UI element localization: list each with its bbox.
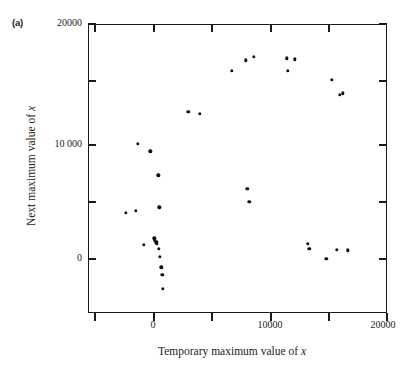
scatter-point: [142, 243, 145, 246]
scatter-point: [134, 209, 137, 212]
scatter-point: [149, 150, 152, 153]
scatter-point: [157, 174, 160, 177]
scatter-point: [158, 205, 161, 208]
ytick-label-20000: 20000: [0, 17, 82, 28]
scatter-plot-area: [88, 24, 387, 313]
xtick-label-10000: 10000: [258, 319, 283, 330]
scatter-point: [159, 266, 162, 269]
scatter-point: [286, 69, 289, 72]
scatter-point: [136, 142, 139, 145]
scatter-point: [330, 78, 333, 81]
scatter-point: [161, 287, 164, 290]
ytick-label-0: 0: [0, 252, 82, 263]
scatter-point: [346, 249, 349, 252]
scatter-point: [341, 92, 344, 95]
x-axis-title: Temporary maximum value of x: [0, 345, 418, 357]
scatter-point: [230, 69, 233, 72]
scatter-point: [247, 200, 250, 203]
scatter-point: [124, 211, 127, 214]
scatter-point: [285, 56, 288, 59]
xtick-minor-5000: [211, 313, 213, 321]
scatter-point: [325, 257, 328, 260]
scatter-point: [158, 255, 161, 258]
xtick-label-0: 0: [151, 319, 156, 330]
scatter-point: [187, 110, 190, 113]
scatter-point: [252, 55, 255, 58]
scatter-point: [308, 247, 311, 250]
x-axis-title-text: Temporary maximum value of: [158, 345, 301, 357]
y-axis-title-variable: x: [25, 106, 37, 111]
ytick-label-10000: 10 000: [0, 138, 82, 149]
scatter-point: [293, 58, 296, 61]
scatter-point: [198, 112, 201, 115]
scatter-point: [161, 273, 164, 276]
figure-panel-a: (a) 20000 10 000 0 0 10000 20000 Tempora…: [0, 0, 418, 377]
xtick-label-20000: 20000: [371, 319, 396, 330]
x-axis-title-variable: x: [301, 345, 306, 357]
scatter-point: [157, 247, 160, 250]
scatter-point: [335, 248, 338, 251]
scatter-point: [246, 187, 249, 190]
y-axis-title-text: Next maximum value of: [25, 111, 37, 226]
scatter-point: [306, 242, 309, 245]
scatter-point: [155, 242, 158, 245]
scatter-point: [244, 59, 247, 62]
y-axis-title: Next maximum value of x: [25, 66, 37, 266]
xtick-minor-neg5000: [94, 313, 96, 321]
xtick-minor-15000: [328, 313, 330, 321]
